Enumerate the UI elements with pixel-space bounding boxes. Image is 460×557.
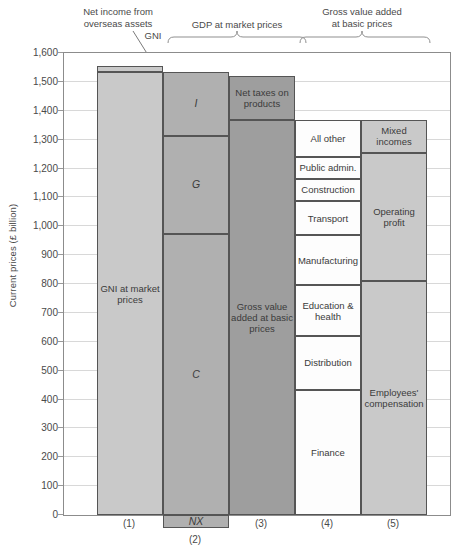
y-tick-mark [58,52,63,53]
segment-manufacturing[interactable]: Manufacturing [295,235,361,285]
segment-i[interactable]: I [163,72,229,136]
plot-area: GNI at market pricesIGCNXNet taxes on pr… [63,52,451,516]
x-axis-label-2: (2) [189,534,201,545]
segment-net-taxes-on-products[interactable]: Net taxes on products [229,76,295,120]
segment-label: Mixed incomes [363,125,425,147]
y-tick-mark [58,399,63,400]
segment-label: Employees' compensation [363,387,425,409]
segment-label: Gross value added at basic prices [231,301,293,334]
segment-label: NX [189,516,204,527]
bar-column-3[interactable]: Net taxes on productsGross value added a… [229,53,295,515]
bar-column-2[interactable]: IGCNX [163,53,229,515]
segment-gross-value-added-at-basic-prices[interactable]: Gross value added at basic prices [229,120,295,515]
bar-column-4[interactable]: All otherPublic admin.ConstructionTransp… [295,53,361,515]
segment-label: All other [311,133,346,144]
bar-column-5[interactable]: Mixed incomesOperating profitEmployees' … [361,53,427,515]
segment-transport[interactable]: Transport [295,201,361,236]
y-tick-mark [58,81,63,82]
segment-label: GNI at market prices [99,283,161,305]
segment-construction[interactable]: Construction [295,179,361,201]
segment-label: Finance [311,447,345,458]
segment-g[interactable]: G [163,136,229,235]
segment-gni-at-market-prices[interactable]: GNI at market prices [97,72,163,515]
y-tick-mark [58,139,63,140]
y-tick-mark [58,196,63,197]
y-tick-mark [58,225,63,226]
chart-root: Current prices (£ billion) 1,6001,5001,4… [0,0,460,557]
segment-public-admin[interactable]: Public admin. [295,157,361,179]
y-tick-mark [58,168,63,169]
segment-all-other[interactable]: All other [295,120,361,157]
y-tick-mark [58,485,63,486]
x-axis-label-4: (4) [321,518,333,529]
y-tick-mark [58,427,63,428]
segment-label: Transport [308,213,348,224]
segment-label: Education & health [297,300,359,322]
y-tick-mark [58,110,63,111]
bar-column-1[interactable]: GNI at market prices [97,53,163,515]
segment-label: C [192,369,200,380]
y-tick-mark [58,341,63,342]
x-axis-label-3: (3) [255,518,267,529]
segment-label: G [192,179,200,190]
segment-finance[interactable]: Finance [295,390,361,515]
y-tick-mark [58,514,63,515]
segment-mixed-incomes[interactable]: Mixed incomes [361,120,427,153]
y-tick-mark [58,283,63,284]
y-tick-mark [58,370,63,371]
segment-label: Construction [301,184,354,195]
segment-label: I [195,98,198,109]
segment-nx[interactable]: NX [163,515,229,528]
segment-employees-compensation[interactable]: Employees' compensation [361,281,427,515]
segment-education-health[interactable]: Education & health [295,285,361,336]
x-axis-label-1: (1) [123,518,135,529]
segment-label: Manufacturing [298,255,358,266]
x-axis-label-5: (5) [387,518,399,529]
segment-label: Distribution [304,357,352,368]
y-tick-mark [58,456,63,457]
segment-label: Net taxes on products [231,87,293,109]
segment-distribution[interactable]: Distribution [295,336,361,390]
y-tick-mark [58,312,63,313]
segment-label: Public admin. [299,162,356,173]
segment-label: Operating profit [363,206,425,228]
segment-c[interactable]: C [163,234,229,515]
y-tick-mark [58,254,63,255]
segment-operating-profit[interactable]: Operating profit [361,153,427,281]
